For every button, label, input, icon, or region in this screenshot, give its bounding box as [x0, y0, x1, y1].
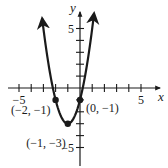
point-marker — [77, 97, 83, 103]
parabola-graph: x y −555−5 (−2, −1)(0, −1)(−1, −3) — [0, 0, 168, 168]
y-axis-label: y — [68, 0, 76, 15]
labeled-points: (−2, −1)(0, −1)(−1, −3) — [11, 97, 119, 150]
x-tick-label: 5 — [138, 93, 144, 107]
x-axis-label: x — [157, 89, 164, 104]
point-label: (−1, −3) — [26, 136, 66, 150]
point-label: (−2, −1) — [11, 103, 51, 117]
point-marker — [65, 121, 71, 127]
y-tick-label: 5 — [68, 22, 74, 36]
point-label: (0, −1) — [86, 101, 119, 115]
point-marker — [52, 97, 58, 103]
